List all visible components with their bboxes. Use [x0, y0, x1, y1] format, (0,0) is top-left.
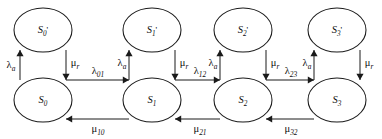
- horizontal-edges-layer: [66, 76, 314, 122]
- state-node-S2[interactable]: S2: [214, 78, 272, 122]
- arrow-head-right: [214, 76, 220, 83]
- arrow-head-down: [356, 74, 363, 80]
- transition-v2-down[interactable]: [262, 50, 269, 80]
- edge-label-v1-down: μr: [180, 57, 189, 70]
- edge-label-f12: λ12: [194, 65, 207, 78]
- edge-label-v0-down: μr: [71, 57, 80, 70]
- arrow-head-up: [16, 50, 23, 56]
- arrow-head-down: [262, 74, 269, 80]
- transition-v1-down[interactable]: [171, 50, 178, 80]
- state-transition-diagram: S0'S1'S2'S3'S0S1S2S3 λaμrλaμrλaμrλaμrλ01…: [0, 0, 382, 139]
- arrow-head-left: [66, 115, 72, 122]
- edge-label-v2-up: λa: [209, 57, 218, 70]
- state-node-S0p[interactable]: S0': [14, 8, 72, 52]
- transition-b32[interactable]: [266, 115, 314, 122]
- transition-v1-up[interactable]: [125, 50, 132, 80]
- markov-chain-canvas: S0'S1'S2'S3'S0S1S2S3 λaμrλaμrλaμrλaμrλ01…: [0, 0, 382, 139]
- arrow-head-down: [171, 74, 178, 80]
- edge-label-v3-up: λa: [303, 57, 312, 70]
- arrow-head-up: [216, 50, 223, 56]
- transition-v2-up[interactable]: [216, 50, 223, 80]
- arrow-head-left: [175, 115, 181, 122]
- edge-label-v3-down: μr: [365, 57, 374, 70]
- edge-label-v1-up: λa: [118, 57, 127, 70]
- state-node-S2p[interactable]: S2': [214, 8, 272, 52]
- transition-f12[interactable]: [175, 76, 220, 83]
- arrow-head-down: [62, 74, 69, 80]
- transition-v3-down[interactable]: [356, 50, 363, 80]
- nodes-layer: S0'S1'S2'S3'S0S1S2S3: [14, 8, 366, 122]
- transition-v0-up[interactable]: [16, 50, 23, 80]
- edge-label-f23: λ23: [285, 65, 298, 78]
- state-node-S3p[interactable]: S3': [308, 8, 366, 52]
- state-node-S1p[interactable]: S1': [123, 8, 181, 52]
- vertical-edges-layer: [16, 50, 363, 80]
- state-node-S3[interactable]: S3: [308, 78, 366, 122]
- transition-b21[interactable]: [175, 115, 220, 122]
- transition-v3-up[interactable]: [310, 50, 317, 80]
- edge-label-f01: λ01: [92, 65, 104, 78]
- transition-b10[interactable]: [66, 115, 129, 122]
- edge-label-b21: μ21: [193, 123, 206, 136]
- arrow-head-left: [266, 115, 272, 122]
- arrow-head-right: [308, 76, 314, 83]
- edge-label-v0-up: λa: [7, 59, 16, 72]
- arrow-head-up: [125, 50, 132, 56]
- state-node-S0[interactable]: S0: [14, 78, 72, 122]
- edge-label-b10: μ10: [91, 123, 104, 136]
- edge-label-v2-down: μr: [271, 57, 280, 70]
- edge-label-b32: μ32: [284, 123, 297, 136]
- arrow-head-up: [310, 50, 317, 56]
- transition-v0-down[interactable]: [62, 50, 69, 80]
- arrow-head-right: [123, 76, 129, 83]
- state-node-S1[interactable]: S1: [123, 78, 181, 122]
